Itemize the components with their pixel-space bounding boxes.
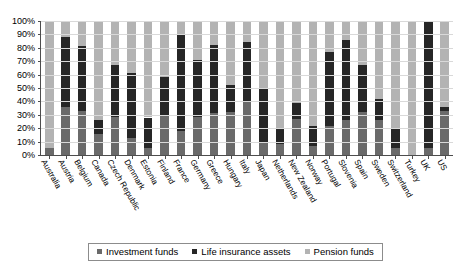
y-axis-tick-label: 70% — [17, 57, 35, 66]
bar-segment-pension-funds — [94, 21, 103, 120]
x-axis-label-uk: UK — [418, 158, 431, 172]
y-axis-tick — [38, 88, 41, 89]
bar-segment-pension-funds — [342, 21, 351, 40]
bar-segment-pension-funds — [111, 21, 120, 65]
y-axis-tick-label: 100% — [12, 17, 35, 26]
y-axis-tick-label: 40% — [17, 97, 35, 106]
y-axis-tick-label: 80% — [17, 43, 35, 52]
legend-item[interactable]: Life insurance assets — [192, 246, 290, 257]
bar-segment-investment-funds — [342, 120, 351, 155]
bar-segment-life-insurance-assets — [111, 65, 120, 117]
bar-segment-investment-funds — [111, 117, 120, 155]
gridline — [41, 75, 453, 76]
y-axis-tick — [38, 75, 41, 76]
y-axis-tick — [38, 48, 41, 49]
y-axis-tick — [38, 101, 41, 102]
gridline — [41, 21, 453, 22]
legend-item[interactable]: Investment funds — [97, 246, 178, 257]
bar-segment-pension-funds — [309, 21, 318, 126]
bar-segment-investment-funds — [391, 148, 400, 155]
y-axis-tick-label: 10% — [17, 137, 35, 146]
legend-swatch-icon — [305, 249, 310, 254]
gridline — [41, 61, 453, 62]
gridline — [41, 115, 453, 116]
bar-segment-life-insurance-assets — [292, 103, 301, 119]
gridline — [41, 88, 453, 89]
y-axis-tick — [38, 34, 41, 35]
y-axis-tick-label: 0% — [22, 151, 35, 160]
bar-segment-investment-funds — [210, 113, 219, 155]
y-axis-tick — [38, 142, 41, 143]
bar-segment-pension-funds — [160, 21, 169, 77]
gridline — [41, 34, 453, 35]
y-axis-tick — [38, 21, 41, 22]
bar-segment-investment-funds — [375, 120, 384, 155]
bar-segment-investment-funds — [177, 131, 186, 155]
y-axis-tick-label: 90% — [17, 30, 35, 39]
gridline — [41, 48, 453, 49]
chart-legend: Investment fundsLife insurance assetsPen… — [88, 243, 383, 261]
bar-segment-investment-funds — [424, 148, 433, 155]
bar-segment-pension-funds — [259, 21, 268, 89]
x-axis-labels: AustraliaAustriaBelgiumCanadaCzech Repub… — [40, 158, 452, 236]
bar-segment-investment-funds — [193, 117, 202, 155]
bar-segment-investment-funds — [259, 142, 268, 155]
bar-segment-investment-funds — [276, 144, 285, 155]
legend-label: Pension funds — [314, 246, 374, 257]
y-axis-tick-label: 20% — [17, 124, 35, 133]
bar-segment-pension-funds — [177, 21, 186, 34]
bar-segment-investment-funds — [144, 148, 153, 155]
y-axis-tick-label: 30% — [17, 110, 35, 119]
y-axis-tick — [38, 115, 41, 116]
y-axis-tick-label: 60% — [17, 70, 35, 79]
y-axis-tick — [38, 155, 41, 156]
bar-segment-life-insurance-assets — [160, 77, 169, 116]
bar-segment-pension-funds — [210, 21, 219, 45]
bar-segment-pension-funds — [243, 21, 252, 42]
plot-wrapper: 0%10%20%30%40%50%60%70%80%90%100% — [0, 0, 459, 170]
bar-segment-life-insurance-assets — [210, 45, 219, 113]
bar-segment-life-insurance-assets — [440, 107, 449, 111]
y-axis-tick — [38, 61, 41, 62]
bar-segment-investment-funds — [226, 112, 235, 155]
bar-segment-life-insurance-assets — [243, 42, 252, 101]
bar-segment-life-insurance-assets — [226, 85, 235, 112]
y-axis-tick-label: 50% — [17, 84, 35, 93]
bar-segment-investment-funds — [292, 119, 301, 155]
bar-segment-life-insurance-assets — [391, 128, 400, 148]
bar-segment-investment-funds — [45, 148, 54, 155]
legend-label: Life insurance assets — [201, 246, 290, 257]
plot-area — [40, 21, 453, 156]
gridline — [41, 101, 453, 102]
bar-segment-investment-funds — [309, 146, 318, 155]
gridline — [41, 142, 453, 143]
bar-segment-pension-funds — [193, 21, 202, 60]
bar-segment-investment-funds — [160, 116, 169, 155]
y-axis-tick — [38, 128, 41, 129]
bar-segment-life-insurance-assets — [424, 21, 433, 148]
y-axis-labels: 0%10%20%30%40%50%60%70%80%90%100% — [0, 15, 38, 155]
chart-container: 0%10%20%30%40%50%60%70%80%90%100% Austra… — [0, 0, 459, 275]
bar-segment-investment-funds — [94, 134, 103, 155]
bar-segment-investment-funds — [358, 112, 367, 155]
x-axis-label-italy: Italy — [237, 158, 252, 176]
bar-segment-pension-funds — [358, 21, 367, 65]
legend-swatch-icon — [192, 249, 197, 254]
bar-segment-life-insurance-assets — [177, 34, 186, 130]
bar-segment-pension-funds — [45, 21, 54, 148]
bar-segment-investment-funds — [440, 111, 449, 155]
bar-segment-life-insurance-assets — [94, 120, 103, 133]
bar-segment-life-insurance-assets — [144, 118, 153, 149]
bar-segment-investment-funds — [127, 138, 136, 155]
bar-segment-investment-funds — [78, 111, 87, 155]
gridline — [41, 128, 453, 129]
legend-label: Investment funds — [106, 246, 178, 257]
bar-segment-pension-funds — [226, 21, 235, 85]
bar-segment-pension-funds — [144, 21, 153, 117]
bar-segment-investment-funds — [325, 126, 334, 155]
legend-item[interactable]: Pension funds — [305, 246, 374, 257]
x-axis-label-us: US — [435, 158, 448, 172]
bar-segment-life-insurance-assets — [342, 40, 351, 120]
legend-swatch-icon — [97, 249, 102, 254]
